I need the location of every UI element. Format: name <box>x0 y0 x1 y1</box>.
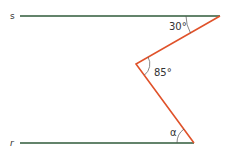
label-s: s <box>10 11 15 21</box>
parallel-lines-diagram: s r 30° 85° α <box>0 0 232 156</box>
angle-arc-middle <box>145 57 150 75</box>
angle-arc-bottom <box>177 129 184 143</box>
angle-label-alpha: α <box>170 127 177 138</box>
angle-label-85: 85° <box>154 67 172 78</box>
angle-label-30: 30° <box>169 21 187 32</box>
label-r: r <box>10 138 15 148</box>
zigzag-transversal <box>136 16 220 143</box>
